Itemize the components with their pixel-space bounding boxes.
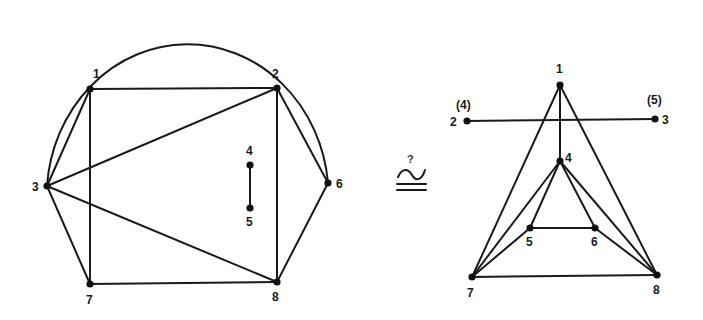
right-graph: 12(4)3(5)45678 [450,62,669,300]
isomorphism-diagram: 12345678 ? 12(4)3(5)45678 [0,0,703,320]
right-node-label-2: 2 [450,115,457,129]
left-node-label-3: 3 [32,180,39,194]
left-node-2 [273,84,280,91]
right-node-label-8: 8 [653,283,660,297]
right-node-7 [468,273,475,280]
left-node-6 [324,179,331,186]
right-node-alt-label-2: (4) [456,98,471,112]
right-node-label-3: 3 [662,113,669,127]
right-node-4 [556,157,563,164]
left-node-label-6: 6 [336,177,343,191]
right-edge-2-3 [467,119,655,121]
left-edge-2-6 [277,88,328,183]
right-edge-1-7 [472,85,560,277]
right-node-2 [463,117,470,124]
right-edge-6-8 [595,228,657,275]
right-node-label-1: 1 [556,62,563,76]
right-edge-4-7 [472,161,560,277]
left-node-label-8: 8 [272,290,279,304]
right-edge-5-7 [472,228,530,277]
left-graph: 12345678 [32,44,343,307]
right-node-label-6: 6 [591,235,598,249]
left-edge-2-3 [47,88,277,186]
tilde-icon [398,170,425,179]
right-node-alt-label-3: (5) [647,93,662,107]
isomorphism-symbol: ? [397,153,426,190]
left-node-label-5: 5 [246,215,253,229]
right-node-3 [651,115,658,122]
right-edge-7-8 [472,275,657,277]
right-node-label-5: 5 [526,235,533,249]
right-node-5 [526,224,533,231]
right-node-1 [556,81,563,88]
right-node-6 [591,224,598,231]
left-node-5 [246,204,253,211]
left-node-7 [86,280,93,287]
left-edge-1-2 [90,88,277,89]
right-edge-1-8 [560,85,657,275]
left-node-1 [86,85,93,92]
right-node-8 [653,271,660,278]
right-node-label-4: 4 [565,151,572,165]
left-node-3 [43,182,50,189]
left-node-label-4: 4 [246,144,253,158]
left-edge-6-8 [277,183,328,282]
left-node-label-7: 7 [86,293,93,307]
left-edge-3-8 [47,186,277,282]
question-mark: ? [407,153,414,165]
left-node-8 [273,278,280,285]
left-edge-7-8 [90,282,277,284]
left-node-label-1: 1 [93,67,100,81]
left-node-4 [246,161,253,168]
right-node-label-7: 7 [467,286,474,300]
left-node-label-2: 2 [272,67,279,81]
